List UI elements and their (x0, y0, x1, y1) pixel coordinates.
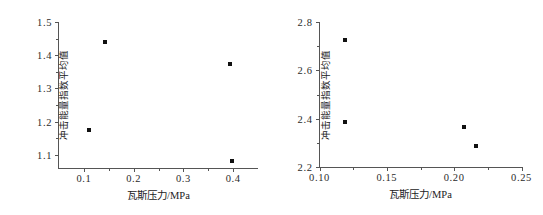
x-tick-label-right: 0.15 (376, 172, 397, 183)
data-point (103, 40, 107, 44)
data-point (343, 120, 347, 124)
data-point (343, 38, 347, 42)
y-tick-left (55, 22, 59, 23)
y-tick-label-left: 1.5 (37, 17, 52, 28)
x-axis-title-left: 瓦斯压力/MPa (127, 187, 190, 202)
y-tick-label-right: 2.4 (298, 113, 313, 124)
y-minor-tick-right (317, 143, 320, 144)
x-tick-right (387, 167, 388, 171)
data-point (230, 159, 234, 163)
chart-panel-right: 2.22.42.62.80.100.150.200.25 瓦斯压力/MPa 冲击… (272, 0, 543, 215)
y-tick-right (316, 22, 320, 23)
y-tick-label-left: 1.1 (37, 149, 52, 160)
y-tick-label-left: 1.4 (37, 50, 52, 61)
axis-ticks-right: 2.22.42.62.80.100.150.200.25 (320, 22, 522, 167)
y-tick-label-right: 2.8 (298, 17, 313, 28)
x-tick-label-right: 0.25 (511, 172, 532, 183)
x-tick-label-left: 0.4 (226, 173, 241, 184)
axis-ticks-left: 1.11.21.31.41.50.10.20.30.4 (59, 22, 258, 168)
x-tick-left (134, 168, 135, 172)
x-minor-tick-right (421, 167, 422, 170)
x-minor-tick-right (353, 167, 354, 170)
y-axis-title-right: 冲击能量指数平均值 (318, 50, 332, 140)
data-point (462, 125, 466, 129)
x-tick-label-left: 0.2 (126, 173, 141, 184)
chart-panel-left: 1.11.21.31.41.50.10.20.30.4 瓦斯压力/MPa 冲击能… (0, 0, 272, 215)
x-tick-right (522, 167, 523, 171)
x-tick-left (84, 168, 85, 172)
x-axis-title-right: 瓦斯压力/MPa (389, 186, 452, 201)
y-minor-tick-right (317, 46, 320, 47)
plot-area-left: 1.11.21.31.41.50.10.20.30.4 瓦斯压力/MPa 冲击能… (58, 22, 258, 169)
x-tick-left (233, 168, 234, 172)
data-point (87, 128, 91, 132)
y-tick-label-left: 1.3 (37, 83, 52, 94)
figure-container: 1.11.21.31.41.50.10.20.30.4 瓦斯压力/MPa 冲击能… (0, 0, 543, 215)
data-point (228, 62, 232, 66)
y-tick-label-right: 2.6 (298, 65, 313, 76)
plot-area-right: 2.22.42.62.80.100.150.200.25 瓦斯压力/MPa 冲击… (319, 22, 522, 168)
y-tick-label-right: 2.2 (298, 162, 313, 173)
x-minor-tick-left (109, 168, 110, 171)
x-tick-label-left: 0.3 (176, 173, 191, 184)
y-tick-left (55, 155, 59, 156)
y-tick-label-left: 1.2 (37, 116, 52, 127)
x-tick-label-right: 0.20 (444, 172, 465, 183)
x-minor-tick-right (488, 167, 489, 170)
data-point (474, 144, 478, 148)
x-tick-left (183, 168, 184, 172)
x-minor-tick-left (159, 168, 160, 171)
y-axis-title-left: 冲击能量指数平均值 (56, 50, 70, 140)
x-minor-tick-left (208, 168, 209, 171)
x-tick-right (454, 167, 455, 171)
y-minor-tick-left (56, 39, 59, 40)
x-tick-label-right: 0.10 (309, 172, 330, 183)
x-tick-label-left: 0.1 (76, 173, 91, 184)
x-tick-right (320, 167, 321, 171)
